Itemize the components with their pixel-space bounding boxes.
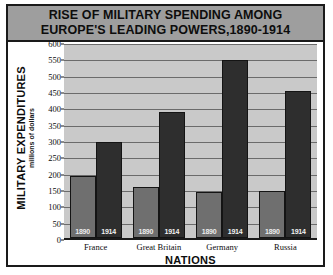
- y-tick-label: 50: [53, 219, 62, 229]
- plot-area: 18901914189019141890191418901914: [64, 44, 317, 240]
- x-tick-label: Russia: [254, 242, 317, 252]
- bar-year-label: 1890: [75, 228, 90, 235]
- bar: 1914: [222, 60, 248, 238]
- bar: 1890: [259, 191, 285, 238]
- y-tick-label: 200: [48, 170, 61, 180]
- bar: 1890: [133, 187, 159, 238]
- x-tick-label: Great Britain: [127, 242, 190, 252]
- bar-group: 18901914: [254, 44, 317, 238]
- y-axis-ticks: 050100150200250300350400450500550600: [40, 44, 64, 240]
- bar: 1890: [196, 192, 222, 238]
- bar-year-label: 1890: [138, 228, 153, 235]
- chart-figure: RISE OF MILITARY SPENDING AMONG EUROPE'S…: [6, 4, 325, 267]
- bar: 1914: [96, 142, 122, 238]
- bar-year-label: 1890: [202, 228, 217, 235]
- y-tick-label: 500: [48, 72, 61, 82]
- bar: 1914: [285, 91, 311, 238]
- y-axis-label-rotated: MILITARY EXPENDITURES millions of dollar…: [15, 66, 35, 209]
- x-axis-label: NATIONS: [64, 254, 317, 266]
- plot-area-wrapper: 050100150200250300350400450500550600 189…: [40, 44, 317, 252]
- chart-title: RISE OF MILITARY SPENDING AMONG EUROPE'S…: [8, 6, 323, 42]
- x-tick-label: France: [64, 242, 127, 252]
- y-tick-label: 150: [48, 186, 61, 196]
- x-tick-label: Germany: [191, 242, 254, 252]
- y-tick-label: 250: [48, 153, 61, 163]
- bar: 1890: [70, 176, 96, 238]
- chart-body: MILITARY EXPENDITURES millions of dollar…: [8, 42, 323, 265]
- bar-year-label: 1914: [228, 228, 243, 235]
- bar-group: 18901914: [191, 44, 254, 238]
- bar-groups: 18901914189019141890191418901914: [64, 44, 317, 238]
- y-tick-label: 350: [48, 121, 61, 131]
- y-axis-label-main: MILITARY EXPENDITURES: [15, 66, 27, 209]
- bar: 1914: [159, 112, 185, 238]
- bar-year-label: 1914: [164, 228, 179, 235]
- x-axis-categories: FranceGreat BritainGermanyRussia: [64, 242, 317, 252]
- chart-title-line-1: RISE OF MILITARY SPENDING AMONG: [49, 8, 283, 23]
- y-axis-label-units: millions of dollars: [28, 66, 35, 209]
- y-tick-label: 400: [48, 104, 61, 114]
- y-tick-label: 450: [48, 88, 61, 98]
- bar-year-label: 1914: [101, 228, 116, 235]
- bar-group: 18901914: [64, 44, 127, 238]
- y-axis-label: MILITARY EXPENDITURES millions of dollar…: [10, 42, 40, 234]
- chart-title-line-2: EUROPE'S LEADING POWERS,1890-1914: [41, 23, 290, 38]
- bar-year-label: 1914: [291, 228, 306, 235]
- y-tick-label: 600: [48, 39, 61, 49]
- y-tick-label: 100: [48, 202, 61, 212]
- y-tick-label: 300: [48, 137, 61, 147]
- bar-group: 18901914: [127, 44, 190, 238]
- bar-year-label: 1890: [265, 228, 280, 235]
- y-tick-label: 550: [48, 55, 61, 65]
